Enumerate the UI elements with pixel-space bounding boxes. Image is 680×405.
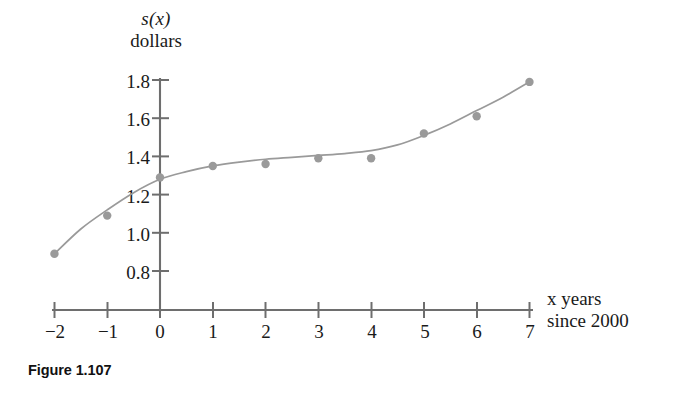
plot-area bbox=[0, 0, 680, 405]
data-point bbox=[209, 162, 217, 170]
data-point-group bbox=[50, 78, 533, 258]
data-point bbox=[103, 211, 111, 219]
data-point bbox=[472, 112, 480, 120]
axes-group bbox=[52, 78, 533, 312]
data-point bbox=[367, 154, 375, 162]
data-point bbox=[420, 129, 428, 137]
data-point bbox=[156, 173, 164, 181]
data-point bbox=[314, 154, 322, 162]
data-point bbox=[50, 250, 58, 258]
data-point bbox=[525, 78, 533, 86]
fitted-curve bbox=[54, 82, 529, 254]
data-point bbox=[261, 160, 269, 168]
figure-container: s(x) dollars 1.8 1.6 1.4 1.2 1.0 0.8 −2 … bbox=[0, 0, 680, 405]
